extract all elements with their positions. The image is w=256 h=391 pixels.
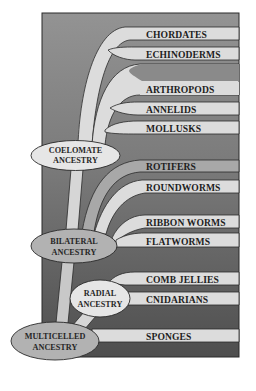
label-sponges: SPONGES — [146, 331, 191, 342]
label-annelids: ANNELIDS — [146, 104, 196, 115]
node-coelomate-ancestry: COELOMATE ANCESTRY — [31, 141, 120, 171]
label-roundworms: ROUNDWORMS — [146, 182, 221, 193]
node-multicelled-shape — [11, 322, 99, 360]
label-chordates: CHORDATES — [146, 29, 207, 40]
node-radial-line2: ANCESTRY — [78, 300, 123, 309]
phylogenetic-tree-diagram: CHORDATES ECHINODERMS ARTHROPODS ANNELID… — [0, 0, 256, 391]
node-radial-line1: RADIAL — [84, 289, 117, 298]
label-echinoderms: ECHINODERMS — [146, 49, 221, 60]
node-coelomate-line2: ANCESTRY — [53, 156, 98, 165]
node-radial-shape — [70, 280, 130, 317]
label-comb-jellies: COMB JELLIES — [146, 274, 219, 285]
label-rotifers: ROTIFERS — [146, 161, 196, 172]
label-arthropods: ARTHROPODS — [146, 84, 214, 95]
node-multicelled-line2: ANCESTRY — [33, 343, 78, 352]
label-mollusks: MOLLUSKS — [146, 123, 201, 134]
node-bilateral-shape — [31, 229, 117, 263]
label-flatworms: FLATWORMS — [146, 236, 210, 247]
node-bilateral-ancestry: BILATERAL ANCESTRY — [31, 229, 117, 263]
node-bilateral-line1: BILATERAL — [50, 237, 98, 246]
node-multicelled-line1: MULTICELLED — [25, 332, 86, 341]
node-coelomate-line1: COELOMATE — [49, 146, 103, 155]
node-bilateral-line2: ANCESTRY — [52, 248, 97, 257]
branch-arthropods-gap — [129, 64, 239, 81]
label-ribbon-worms: RIBBON WORMS — [146, 217, 226, 228]
label-cnidarians: CNIDARIANS — [146, 294, 208, 305]
node-multicelled-ancestry: MULTICELLED ANCESTRY — [11, 322, 99, 360]
node-radial-ancestry: RADIAL ANCESTRY — [70, 280, 130, 317]
